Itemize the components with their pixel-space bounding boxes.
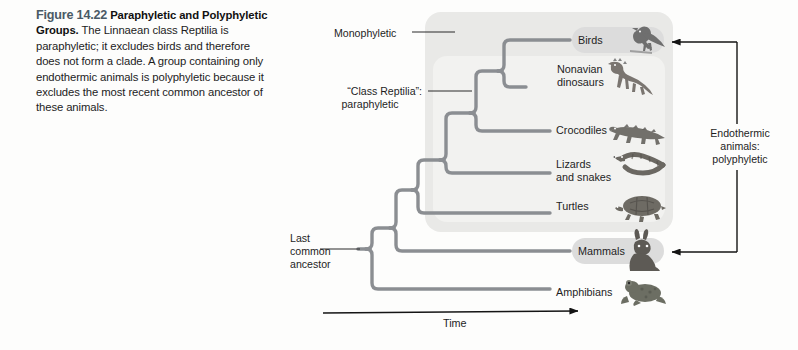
branch-root-split	[366, 228, 390, 249]
taxon-label-turtles: Turtles	[556, 200, 589, 213]
branch-root-to-amphibians	[366, 249, 550, 289]
branch-amniote-up	[390, 190, 412, 228]
label-class-reptilia-line2: paraphyletic	[318, 98, 422, 111]
cladogram-svg	[0, 0, 798, 350]
label-time-axis: Time	[443, 317, 467, 330]
taxon-label-mammals: Mammals	[578, 245, 625, 258]
label-class-reptilia-line1: “Class Reptilia”:	[347, 85, 422, 97]
taxon-label-lizards-and-snakes: Lizards and snakes	[556, 158, 611, 183]
taxon-label-amphibians: Amphibians	[556, 286, 612, 299]
cladogram-diagram: Monophyletic “Class Reptilia”:paraphylet…	[0, 0, 798, 350]
taxon-label-crocodiles: Crocodiles	[556, 124, 607, 137]
time-axis	[323, 311, 578, 313]
label-last-common-ancestor: Last common ancestor	[290, 232, 358, 272]
figure-container: Figure 14.22 Paraphyletic and Polyphylet…	[0, 0, 798, 350]
taxon-label-birds: Birds	[578, 34, 603, 47]
label-class-reptilia: “Class Reptilia”:paraphyletic	[318, 85, 422, 111]
label-endothermic-animals: Endothermic animals: polyphyletic	[692, 127, 788, 167]
time-axis-arrow	[323, 311, 578, 313]
label-monophyletic: Monophyletic	[334, 27, 396, 40]
taxon-label-nonavian-dinosaurs: Nonavian dinosaurs	[557, 63, 604, 88]
